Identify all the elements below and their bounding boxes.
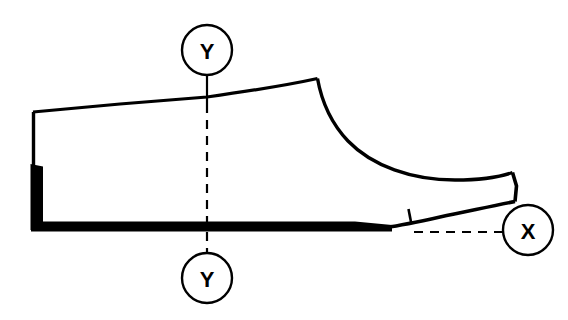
toe-spring-underside-path: [386, 202, 515, 228]
instep-vamp-curve-path: [318, 79, 513, 181]
heel-seat-block-shape: [31, 164, 44, 230]
shoe-last-profile-group: [31, 79, 517, 232]
toe-tip-edge-path: [513, 173, 517, 202]
shoe-section-diagram: Y Y X: [0, 0, 568, 320]
marker-x-right[interactable]: X: [503, 205, 553, 255]
marker-x-right-label: X: [521, 219, 536, 244]
diagram-canvas: Y Y X: [0, 0, 568, 320]
featherline-tick-mark: [409, 209, 412, 222]
marker-y-top-label: Y: [200, 39, 215, 64]
upper-topline-path: [33, 79, 318, 113]
marker-y-bottom[interactable]: Y: [182, 253, 232, 303]
sole-bar-shape: [31, 222, 392, 232]
marker-y-top[interactable]: Y: [182, 25, 232, 75]
marker-y-bottom-label: Y: [200, 267, 215, 292]
